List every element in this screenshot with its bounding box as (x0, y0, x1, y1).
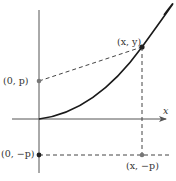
curve-point-label: (x, y) (117, 36, 141, 47)
x-axis-label: x (163, 105, 169, 116)
directrix-origin-point (37, 153, 42, 158)
directrix-point (140, 153, 145, 158)
directrix-origin-label: (0, −p) (1, 148, 35, 159)
parabola-diagram: (0, p) (x, y) (0, −p) (x, −p) x (0, 0, 176, 181)
directrix-point-label: (x, −p) (126, 160, 159, 171)
focus-point (37, 79, 42, 84)
parabola-curve (39, 4, 173, 119)
focus-label: (0, p) (3, 75, 29, 86)
focus-distance-line (39, 47, 142, 81)
